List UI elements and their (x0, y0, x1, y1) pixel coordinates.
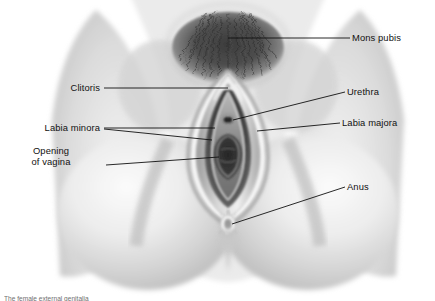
label-opening-of-vagina-line1: Opening (0, 145, 102, 156)
label-clitoris: Clitoris (0, 82, 100, 93)
figure-caption: The female external genitalia (4, 295, 304, 301)
label-anus: Anus (347, 181, 369, 192)
label-opening-of-vagina-line2: of vagina (0, 156, 102, 167)
label-urethra: Urethra (347, 86, 379, 97)
label-mons-pubis: Mons pubis (352, 32, 401, 43)
label-labia-majora: Labia majora (342, 117, 397, 128)
label-labia-minora: Labia minora (0, 122, 100, 133)
figure-container: Mons pubis Urethra Labia majora Anus Cli… (0, 0, 435, 301)
label-opening-of-vagina: Opening of vagina (0, 145, 102, 167)
